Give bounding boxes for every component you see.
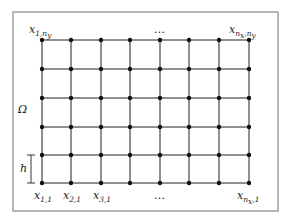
grid-node xyxy=(40,38,44,42)
grid-node xyxy=(217,96,221,100)
grid-node xyxy=(158,181,162,185)
grid-node xyxy=(158,38,162,42)
grid-node xyxy=(128,181,132,185)
grid-node xyxy=(128,67,132,71)
grid-node xyxy=(187,125,191,129)
grid-node xyxy=(128,96,132,100)
grid-node xyxy=(247,153,251,157)
grid-node xyxy=(69,153,73,157)
grid-node xyxy=(40,181,44,185)
grid-node xyxy=(187,67,191,71)
grid-node xyxy=(247,125,251,129)
grid-node xyxy=(99,181,103,185)
grid-node xyxy=(158,125,162,129)
grid-node xyxy=(128,38,132,42)
grid-node xyxy=(69,67,73,71)
grid-node xyxy=(69,38,73,42)
grid-node xyxy=(99,67,103,71)
label-top-right: xnx,ny xyxy=(229,23,257,40)
spacing-marker xyxy=(27,155,35,183)
grid-node xyxy=(99,153,103,157)
mesh-grid xyxy=(42,40,249,183)
grid-node xyxy=(187,96,191,100)
grid-node xyxy=(158,153,162,157)
grid-node xyxy=(158,96,162,100)
grid-node xyxy=(99,38,103,42)
grid-node xyxy=(69,125,73,129)
grid-node xyxy=(99,125,103,129)
grid-node xyxy=(217,153,221,157)
grid-node xyxy=(187,38,191,42)
grid-node xyxy=(247,181,251,185)
grid-node xyxy=(217,125,221,129)
grid-node xyxy=(128,153,132,157)
grid-node xyxy=(217,181,221,185)
label-x21: x2,1 xyxy=(63,189,81,204)
label-x11: x1,1 xyxy=(34,189,52,204)
grid-node xyxy=(40,153,44,157)
grid-node xyxy=(158,67,162,71)
label-x31: x3,1 xyxy=(93,189,111,204)
grid-node xyxy=(187,181,191,185)
grid-node xyxy=(69,181,73,185)
grid-diagram: h Ω x1,ny … xnx,ny x1,1 x2,1 x3,1 … xnx,… xyxy=(0,0,291,222)
label-top-left: x1,ny xyxy=(29,23,52,40)
grid-node xyxy=(247,96,251,100)
grid-node xyxy=(40,96,44,100)
ellipsis-bottom: … xyxy=(154,189,165,202)
label-bottom-right: xnx,1 xyxy=(237,189,259,206)
ellipsis-top: … xyxy=(154,23,165,36)
grid-node xyxy=(217,67,221,71)
grid-node xyxy=(40,125,44,129)
grid-node xyxy=(128,125,132,129)
grid-node xyxy=(247,67,251,71)
domain-label: Ω xyxy=(17,103,27,116)
domain-frame xyxy=(13,12,278,211)
grid-node xyxy=(217,38,221,42)
spacing-label: h xyxy=(20,162,27,175)
grid-node xyxy=(99,96,103,100)
grid-node xyxy=(69,96,73,100)
grid-node xyxy=(187,153,191,157)
grid-node xyxy=(40,67,44,71)
